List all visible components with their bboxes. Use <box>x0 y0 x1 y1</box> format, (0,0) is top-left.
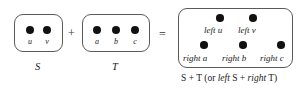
caption-italic-left: left <box>218 73 230 83</box>
result-caption: S + T (or left S + right T) <box>181 73 277 83</box>
result-label-left-u: left u <box>204 26 222 35</box>
caption-mid: S + <box>230 73 248 83</box>
caption-italic-right: right <box>248 73 266 83</box>
caption-tail: T) <box>266 73 277 83</box>
set-t-dot-c <box>131 26 139 34</box>
set-s-dot-u <box>26 26 34 34</box>
set-t-label-c: c <box>129 38 141 46</box>
set-t-name: T <box>112 62 118 73</box>
result-label-right-c: right c <box>260 54 284 63</box>
result-label-right-b: right b <box>222 54 246 63</box>
result-dot-left-u <box>216 14 224 22</box>
result-dot-left-v <box>249 14 257 22</box>
set-t-dot-a <box>93 26 101 34</box>
set-s-dot-v <box>43 26 51 34</box>
plus-operator: + <box>68 27 75 39</box>
set-sum-figure: u v S + a b c T = left u left v right a … <box>0 0 306 88</box>
equals-operator: = <box>159 28 166 40</box>
result-label-left-v: left v <box>238 26 256 35</box>
result-dot-right-b <box>239 41 247 49</box>
set-s-box <box>14 14 63 52</box>
result-dot-right-a <box>200 41 208 49</box>
set-t-dot-b <box>112 26 120 34</box>
set-s-name: S <box>35 62 40 73</box>
set-s-label-u: u <box>24 38 36 46</box>
set-t-label-b: b <box>110 38 122 46</box>
result-dot-right-c <box>277 41 285 49</box>
set-t-label-a: a <box>91 38 103 46</box>
caption-lead: S + T (or <box>181 73 218 83</box>
result-label-right-a: right a <box>183 54 207 63</box>
set-s-label-v: v <box>41 38 53 46</box>
